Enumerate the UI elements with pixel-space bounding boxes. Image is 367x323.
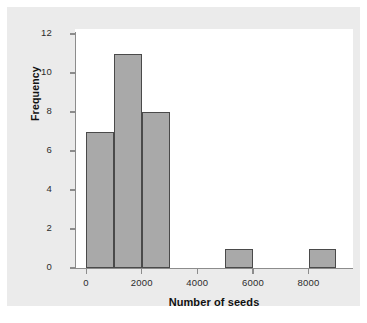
x-tick-label: 8000 bbox=[279, 277, 339, 288]
y-tick-label: 10 bbox=[41, 66, 52, 77]
histogram-bar bbox=[225, 249, 253, 269]
y-tick-label: 2 bbox=[47, 222, 52, 233]
y-tick-mark bbox=[70, 72, 75, 73]
y-tick-mark bbox=[70, 189, 75, 190]
x-tick-mark bbox=[197, 269, 198, 274]
histogram-figure: 024681012 02000400060008000 Frequency Nu… bbox=[0, 0, 367, 323]
y-tick-label: 6 bbox=[47, 144, 52, 155]
x-tick-mark bbox=[308, 269, 309, 274]
x-tick-label: 2000 bbox=[112, 277, 172, 288]
x-tick-mark bbox=[86, 269, 87, 274]
y-tick-label: 4 bbox=[47, 183, 52, 194]
x-tick-label: 0 bbox=[56, 277, 116, 288]
y-tick-mark bbox=[70, 33, 75, 34]
y-tick-label: 0 bbox=[47, 261, 52, 272]
y-tick-label: 12 bbox=[41, 27, 52, 38]
y-tick-mark bbox=[70, 267, 75, 268]
y-tick-mark bbox=[70, 228, 75, 229]
y-tick-mark bbox=[70, 150, 75, 151]
x-tick-mark bbox=[141, 269, 142, 274]
x-tick-mark bbox=[252, 269, 253, 274]
histogram-bar bbox=[309, 249, 337, 269]
y-tick-label: 8 bbox=[47, 105, 52, 116]
y-axis-line bbox=[75, 32, 76, 269]
x-axis-line bbox=[75, 268, 353, 269]
y-tick-mark bbox=[70, 111, 75, 112]
x-axis-title: Number of seeds bbox=[75, 296, 353, 308]
histogram-bar bbox=[114, 54, 142, 269]
histogram-bar bbox=[86, 132, 114, 269]
x-tick-label: 4000 bbox=[167, 277, 227, 288]
histogram-bar bbox=[142, 112, 170, 268]
x-tick-label: 6000 bbox=[223, 277, 283, 288]
y-axis-title: Frequency bbox=[29, 105, 41, 121]
figure-panel: 024681012 02000400060008000 Frequency Nu… bbox=[7, 7, 360, 306]
